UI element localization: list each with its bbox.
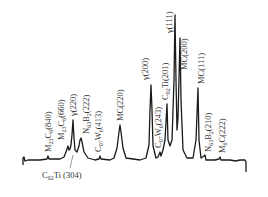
svg-text:γ(220): γ(220) — [68, 94, 78, 117]
label-mc-220: MC(220) — [115, 89, 125, 121]
svg-text:C07W6(413): C07W6(413) — [93, 111, 104, 152]
label-gamma-111: γ(111) — [164, 11, 174, 34]
svg-text:MC(200): MC(200) — [179, 38, 189, 70]
label-m23c6-660: M23C6(660) — [56, 99, 67, 140]
label-c02ti-304: C02Ti (304) — [42, 155, 82, 181]
svg-text:C07W6(243): C07W6(243) — [153, 107, 164, 148]
label-mc-111: MC(111) — [196, 53, 206, 84]
label-c02ti-201: C02Ti(201) — [160, 62, 171, 100]
svg-text:N63B2(210): N63B2(210) — [203, 113, 214, 152]
svg-text:M23C6(660): M23C6(660) — [56, 99, 67, 140]
label-m6c-222: M6C(222) — [217, 118, 228, 153]
label-gamma-220: γ(220) — [68, 94, 78, 117]
label-c07w6-413: C07W6(413) — [93, 111, 104, 152]
svg-text:γ(111): γ(111) — [164, 11, 174, 34]
label-m23c6-840: M23C6(840) — [43, 111, 54, 152]
svg-text:γ(200): γ(200) — [140, 58, 150, 81]
svg-text:C02Ti(201): C02Ti(201) — [160, 62, 171, 100]
leader-line — [70, 155, 73, 168]
label-c07w6-243: C07W6(243) — [153, 107, 164, 148]
xrd-chart: M23C6(840) M23C6(660) γ(220) N63B2(222) … — [0, 0, 268, 197]
svg-text:MC(220): MC(220) — [115, 89, 125, 121]
svg-text:N63B2(222): N63B2(222) — [81, 95, 92, 134]
label-n63b2-222: N63B2(222) — [81, 95, 92, 134]
svg-text:M23C6(840): M23C6(840) — [43, 111, 54, 152]
label-gamma-200: γ(200) — [140, 58, 150, 81]
svg-text:MC(111): MC(111) — [196, 53, 206, 84]
svg-text:C02Ti (304): C02Ti (304) — [42, 170, 82, 181]
svg-text:M6C(222): M6C(222) — [217, 118, 228, 153]
label-mc-200: MC(200) — [179, 38, 189, 70]
label-n63b2-210: N63B2(210) — [203, 113, 214, 152]
